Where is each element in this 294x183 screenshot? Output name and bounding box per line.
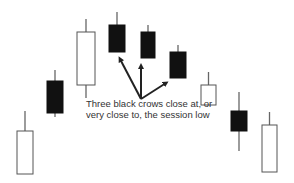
candles-group bbox=[17, 12, 277, 174]
annotation-arrows bbox=[120, 59, 166, 99]
candle-9 bbox=[262, 112, 277, 172]
candle-body-white bbox=[17, 131, 33, 174]
candle-6 bbox=[170, 45, 186, 78]
candle-body-white bbox=[262, 125, 277, 172]
candle-1 bbox=[17, 111, 33, 174]
candle-2 bbox=[47, 70, 63, 117]
annotation-text: Three black crows close at, or very clos… bbox=[86, 98, 226, 120]
candlestick-chart bbox=[0, 0, 294, 183]
arrow-to-crow-1 bbox=[120, 59, 141, 99]
candle-4 bbox=[109, 12, 125, 52]
candle-body-black bbox=[47, 81, 63, 113]
annotation-line-1: Three black crows close at, or bbox=[86, 98, 226, 109]
candle-body-black bbox=[109, 25, 125, 52]
candle-body-white bbox=[77, 32, 95, 85]
annotation-line-2: very close to, the session low bbox=[86, 109, 226, 120]
candle-8 bbox=[231, 92, 247, 151]
candle-body-black bbox=[231, 111, 247, 131]
candle-3 bbox=[77, 19, 95, 98]
candle-body-black bbox=[141, 32, 155, 58]
candle-body-black bbox=[170, 52, 186, 78]
candle-5 bbox=[141, 25, 155, 58]
arrow-to-crow-3 bbox=[141, 83, 166, 99]
